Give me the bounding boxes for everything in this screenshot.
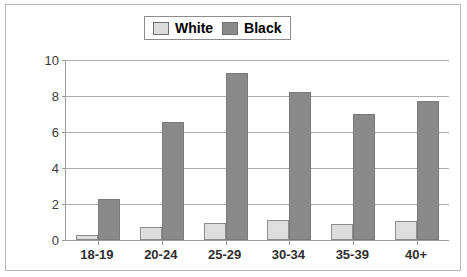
bar-black (162, 122, 184, 240)
x-tick-mark (289, 240, 290, 245)
bar-group (130, 60, 194, 240)
bar-white (76, 235, 98, 240)
legend-swatch-black-icon (222, 22, 238, 35)
bar-white (331, 224, 353, 240)
y-tick-label: 6 (52, 125, 59, 140)
bar-white (204, 223, 226, 240)
y-tick-label: 2 (52, 197, 59, 212)
x-tick-label: 40+ (405, 247, 427, 262)
bar-black (226, 73, 248, 240)
y-tick-label: 0 (52, 233, 59, 248)
x-tick-mark (417, 240, 418, 245)
chart-frame: White Black 0246810 18-1920-2425-2930-34… (5, 4, 461, 271)
y-tick-label: 4 (52, 161, 59, 176)
legend-item-black: Black (222, 21, 281, 35)
chart-legend: White Black (144, 16, 291, 40)
x-tick-mark (162, 240, 163, 245)
x-tick-label: 25-29 (208, 247, 241, 262)
plot-area (65, 60, 449, 241)
bar-black (98, 199, 120, 240)
y-axis-labels: 0246810 (31, 60, 59, 240)
bar-white (267, 220, 289, 240)
bar-groups (66, 60, 449, 240)
legend-item-white: White (153, 21, 213, 35)
x-tick-mark (353, 240, 354, 245)
bar-group (194, 60, 258, 240)
bar-group (321, 60, 385, 240)
legend-label-black: Black (244, 21, 281, 35)
bar-group (257, 60, 321, 240)
x-tick-label: 30-34 (272, 247, 305, 262)
y-tick-label: 8 (52, 89, 59, 104)
x-tick-mark (226, 240, 227, 245)
bar-white (140, 227, 162, 240)
x-tick-label: 18-19 (80, 247, 113, 262)
bar-white (395, 221, 417, 240)
x-tick-label: 35-39 (336, 247, 369, 262)
y-tick-label: 10 (45, 53, 59, 68)
bar-black (353, 114, 375, 240)
bar-black (289, 92, 311, 241)
legend-label-white: White (175, 21, 213, 35)
bar-group (66, 60, 130, 240)
legend-swatch-white-icon (153, 22, 169, 35)
x-tick-label: 20-24 (144, 247, 177, 262)
y-tick-mark (62, 240, 66, 241)
bar-group (385, 60, 449, 240)
x-tick-mark (98, 240, 99, 245)
bar-black (417, 101, 439, 241)
